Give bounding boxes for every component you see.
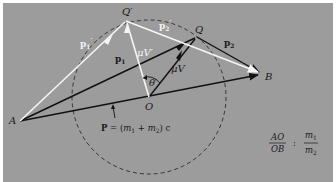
label-A: A xyxy=(8,115,16,126)
collision-momentum-diagram: Q′ Q B A O p1′ p2′ p1 p2 μV′ μV θ′ P = (… xyxy=(0,0,336,182)
vector-P-line xyxy=(20,75,258,121)
momentum-equation: P = (m1 + m2) c xyxy=(101,123,171,134)
ratio-denominator-left: OB xyxy=(271,144,284,154)
P-label-pointer-arrowhead xyxy=(111,104,115,109)
ratio-equation: AO OB : m1 m2 xyxy=(269,130,318,156)
label-O: O xyxy=(145,101,153,112)
label-p2-prime: p2′ xyxy=(159,18,171,32)
label-B: B xyxy=(264,71,272,82)
label-Q: Q xyxy=(195,24,203,35)
ratio-denominator-right: m2 xyxy=(305,145,317,156)
label-muV-prime: μV′ xyxy=(137,47,154,58)
label-muV: μV xyxy=(171,63,186,74)
vector-p1-line xyxy=(20,38,195,121)
ratio-numerator-left: AO xyxy=(270,132,284,142)
label-theta-prime: θ′ xyxy=(149,77,158,88)
label-Q-prime: Q′ xyxy=(122,6,133,17)
ratio-numerator-right: m1 xyxy=(305,130,317,141)
vector-muV-prime-line xyxy=(127,23,149,97)
label-p1-prime: p1′ xyxy=(80,36,92,50)
ratio-separator: : xyxy=(293,138,296,148)
label-p2: p2 xyxy=(224,38,234,49)
label-p1: p1 xyxy=(115,54,125,65)
